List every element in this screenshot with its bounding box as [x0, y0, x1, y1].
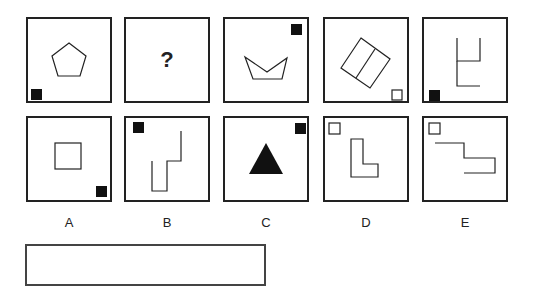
l-shape-icon [325, 118, 407, 200]
top-cell-question: ? [124, 17, 210, 103]
black-square-marker [295, 123, 306, 134]
pentagon-icon [28, 19, 110, 101]
option-e[interactable] [422, 116, 508, 202]
option-label-d: D [323, 215, 409, 230]
line-figure-icon [424, 19, 506, 101]
step-line-icon [424, 118, 506, 200]
white-square-marker [329, 123, 340, 134]
black-square-marker [133, 122, 144, 133]
option-label-e: E [422, 215, 508, 230]
concave-pentagon-icon [225, 19, 307, 101]
square-icon [28, 118, 110, 200]
black-square-marker [31, 89, 42, 100]
answer-box[interactable] [25, 244, 266, 286]
option-a[interactable] [26, 116, 112, 202]
option-c[interactable] [223, 116, 309, 202]
option-label-a: A [26, 215, 112, 230]
white-square-marker [429, 123, 440, 134]
option-b[interactable] [124, 116, 210, 202]
black-square-marker [291, 24, 302, 35]
top-cell-3 [223, 17, 309, 103]
divided-rectangle-icon [325, 19, 407, 101]
black-square-marker [96, 186, 107, 197]
white-square-marker [392, 90, 402, 100]
option-label-b: B [124, 215, 210, 230]
triangle-icon [225, 118, 307, 200]
top-cell-5 [422, 17, 508, 103]
zigzag-icon [126, 118, 208, 200]
question-mark: ? [126, 19, 208, 101]
option-d[interactable] [323, 116, 409, 202]
top-cell-4 [323, 17, 409, 103]
top-cell-1 [26, 17, 112, 103]
black-square-marker [429, 90, 440, 101]
option-label-c: C [223, 215, 309, 230]
